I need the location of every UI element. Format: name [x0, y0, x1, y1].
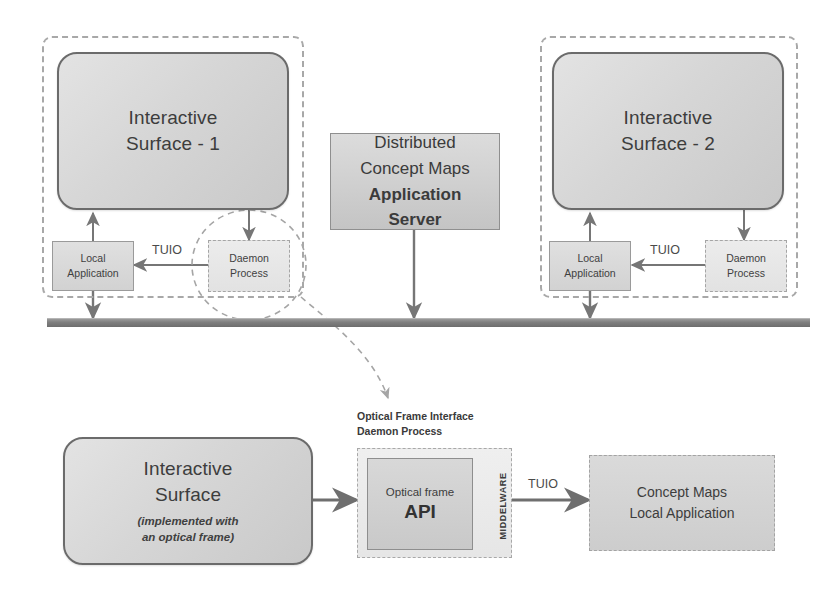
- application-server-line4: Server: [360, 207, 470, 233]
- application-server-line1: Distributed: [360, 130, 470, 156]
- interactive-surface-1-line2: Surface - 1: [126, 131, 220, 157]
- optical-frame-api-caption: Optical frame: [386, 486, 454, 498]
- interactive-surface-2-line2: Surface - 2: [621, 131, 715, 157]
- callout-leader-line: [301, 297, 388, 398]
- concept-maps-local-application-box[interactable]: Concept Maps Local Application: [589, 455, 775, 551]
- application-server-line2: Concept Maps: [360, 156, 470, 182]
- optical-frame-daemon-caption-line2: Daemon Process: [357, 425, 442, 437]
- daemon-process-1-box[interactable]: Daemon Process: [208, 240, 290, 292]
- bottom-surface-line2: Surface: [138, 482, 239, 508]
- bottom-interactive-surface-box[interactable]: Interactive Surface (implemented with an…: [63, 437, 313, 565]
- bottom-surface-note-line1: (implemented with: [138, 513, 239, 530]
- bottom-surface-note-line2: an optical frame): [138, 529, 239, 546]
- middleware-label: MIDDELWARE: [498, 466, 508, 546]
- application-server-box[interactable]: Distributed Concept Maps Application Ser…: [330, 133, 500, 230]
- application-server-line3: Application: [360, 182, 470, 208]
- optical-frame-daemon-caption-line1: Optical Frame Interface: [357, 410, 474, 422]
- optical-frame-daemon-caption: Optical Frame Interface Daemon Process: [357, 409, 474, 439]
- tuio-label-bottom: TUIO: [528, 477, 558, 491]
- daemon-process-2-line1: Daemon: [726, 251, 766, 266]
- daemon-process-1-line1: Daemon: [229, 251, 269, 266]
- network-bus: [47, 318, 810, 327]
- optical-frame-api-box[interactable]: Optical frame API: [367, 458, 473, 550]
- tuio-label-left: TUIO: [152, 243, 182, 257]
- concept-maps-local-app-line2: Local Application: [629, 503, 734, 524]
- bottom-surface-line1: Interactive: [138, 456, 239, 482]
- interactive-surface-1-box[interactable]: Interactive Surface - 1: [57, 52, 289, 210]
- local-application-1-line2: Application: [67, 266, 118, 281]
- local-application-1-box[interactable]: Local Application: [52, 241, 134, 291]
- daemon-process-2-box[interactable]: Daemon Process: [705, 240, 787, 292]
- local-application-1-line1: Local: [67, 251, 118, 266]
- daemon-process-2-line2: Process: [726, 266, 766, 281]
- concept-maps-local-app-line1: Concept Maps: [629, 482, 734, 503]
- local-application-2-line1: Local: [564, 251, 615, 266]
- optical-frame-daemon-container[interactable]: Optical frame API MIDDELWARE: [357, 448, 512, 558]
- tuio-label-right: TUIO: [650, 243, 680, 257]
- daemon-process-1-line2: Process: [229, 266, 269, 281]
- local-application-2-box[interactable]: Local Application: [549, 241, 631, 291]
- interactive-surface-1-line1: Interactive: [126, 105, 220, 131]
- local-application-2-line2: Application: [564, 266, 615, 281]
- optical-frame-api-name: API: [404, 501, 436, 523]
- interactive-surface-2-box[interactable]: Interactive Surface - 2: [552, 52, 784, 210]
- interactive-surface-2-line1: Interactive: [621, 105, 715, 131]
- diagram-canvas: Interactive Surface - 1 Local Applicatio…: [0, 0, 834, 605]
